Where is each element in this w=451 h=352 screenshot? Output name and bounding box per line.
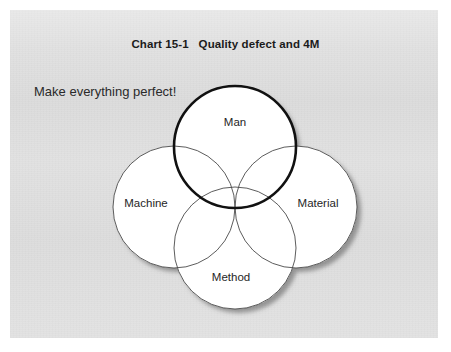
scanned-page: Chart 15-1 Quality defect and 4M Make ev… — [0, 0, 451, 352]
venn-diagram — [0, 0, 451, 352]
venn-label-method: Method — [212, 271, 250, 283]
venn-label-machine: Machine — [124, 197, 167, 209]
venn-label-man: Man — [224, 116, 246, 128]
venn-label-material: Material — [298, 197, 339, 209]
